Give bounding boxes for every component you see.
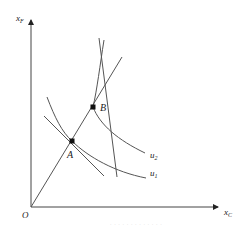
- point-a-label: A: [67, 150, 73, 160]
- indifference-curve-diagram: [0, 0, 241, 233]
- point-a-marker: [70, 139, 75, 144]
- y-axis-label: xF: [16, 14, 24, 24]
- curve-u2-label: u2: [150, 151, 158, 161]
- point-b-label: B: [100, 103, 106, 113]
- expansion-ray: [31, 57, 122, 207]
- origin-label: O: [22, 211, 29, 220]
- x-axis-label: xC: [224, 208, 232, 218]
- budget-line-a: [44, 116, 104, 176]
- figure-caption: · · · · · · · · · · · · ·: [110, 221, 235, 227]
- indifference-curve-u2: [93, 40, 145, 153]
- indifference-curve-u1: [47, 97, 146, 178]
- curve-u1-label: u1: [150, 169, 158, 179]
- point-b-marker: [91, 105, 96, 110]
